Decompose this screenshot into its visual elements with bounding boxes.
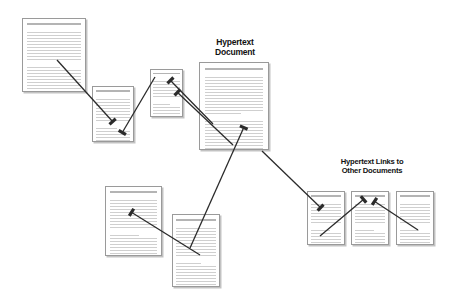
page-text-line: [205, 110, 264, 111]
page-text-line: [176, 231, 216, 232]
page-text-line: [355, 230, 374, 231]
page-text-line: [176, 281, 216, 282]
page-text-line: [355, 236, 386, 237]
page-text-gap: [311, 199, 342, 202]
page-text-line: [176, 219, 216, 221]
page-text-line: [110, 241, 157, 242]
page-text-line: [27, 91, 80, 92]
page-text-line: [96, 128, 117, 129]
page-text-line: [27, 23, 80, 25]
page-text-gap: [400, 199, 431, 202]
page-text-line: [355, 233, 386, 234]
page-text-lines: [355, 195, 386, 241]
page-text-gap: [311, 225, 342, 228]
page-text-lines: [96, 90, 130, 138]
page-text-gap: [96, 123, 130, 126]
page-text-gap: [205, 116, 264, 119]
page-text-line: [176, 249, 216, 250]
page-text-line: [205, 80, 264, 81]
page-text-line: [205, 107, 264, 108]
document-page-lower-mid: [172, 214, 220, 287]
page-text-line: [96, 108, 130, 109]
page-text-line: [400, 233, 431, 234]
page-text-line: [311, 207, 342, 208]
page-text-line: [205, 101, 264, 102]
linked-document-page-3: [396, 191, 434, 245]
page-text-lines: [110, 191, 157, 252]
page-text-line: [153, 104, 170, 105]
page-text-gap: [355, 199, 386, 202]
page-text-line: [176, 240, 216, 241]
page-text-line: [153, 81, 180, 82]
page-text-line: [205, 92, 264, 93]
page-text-line: [27, 56, 80, 57]
page-text-line: [355, 242, 386, 243]
page-text-line: [400, 219, 431, 220]
page-text-line: [205, 142, 264, 143]
page-text-line: [153, 116, 180, 117]
page-text-line: [176, 266, 216, 267]
page-text-line: [110, 209, 157, 210]
page-text-line: [400, 239, 431, 240]
page-text-line: [176, 269, 216, 270]
page-text-line: [153, 110, 180, 111]
page-text-line: [153, 73, 180, 75]
page-text-line: [205, 127, 264, 128]
page-text-line: [176, 237, 216, 238]
page-text-line: [110, 215, 157, 216]
page-text-line: [96, 102, 130, 103]
page-text-line: [205, 95, 264, 96]
page-text-line: [27, 44, 80, 45]
page-text-line: [110, 221, 157, 222]
page-text-line: [96, 120, 130, 121]
page-text-line: [176, 263, 201, 264]
page-text-line: [96, 111, 130, 112]
page-text-line: [27, 82, 80, 83]
page-text-line: [27, 41, 80, 42]
page-text-line: [205, 139, 264, 140]
page-text-line: [205, 130, 264, 131]
main-document-label: Hypertext Document: [206, 38, 264, 57]
page-text-line: [400, 204, 431, 205]
page-text-line: [27, 53, 80, 54]
page-text-line: [355, 222, 386, 223]
document-page-top-left: [22, 18, 86, 92]
page-text-lines: [153, 73, 180, 114]
page-text-line: [311, 222, 342, 223]
page-text-line: [153, 90, 180, 91]
page-text-gap: [153, 76, 180, 79]
page-text-line: [96, 137, 130, 138]
page-text-line: [153, 93, 180, 94]
page-text-line: [205, 89, 264, 90]
page-text-line: [110, 253, 157, 254]
page-text-line: [27, 85, 80, 86]
page-text-lines: [205, 68, 264, 145]
page-text-line: [355, 216, 386, 217]
page-text-line: [355, 239, 386, 240]
linked-document-page-2: [351, 191, 389, 245]
page-text-line: [110, 235, 139, 236]
page-text-gap: [110, 195, 157, 198]
page-text-line: [176, 252, 216, 253]
document-page-small-center: [150, 69, 183, 117]
page-text-line: [96, 140, 130, 141]
page-text-line: [153, 96, 180, 97]
page-text-line: [400, 216, 431, 217]
page-text-line: [205, 124, 264, 125]
page-text-line: [27, 76, 80, 77]
page-text-line: [27, 70, 80, 71]
page-text-gap: [176, 223, 216, 226]
page-text-line: [176, 243, 216, 244]
page-text-line: [355, 204, 386, 205]
page-text-gap: [110, 230, 157, 233]
page-text-line: [110, 227, 157, 228]
page-text-gap: [153, 99, 180, 102]
page-text-line: [110, 200, 157, 201]
page-text-line: [400, 207, 431, 208]
page-text-line: [355, 207, 386, 208]
page-text-line: [110, 247, 157, 248]
page-text-gap: [205, 72, 264, 75]
document-page-upper-mid-left: [92, 86, 134, 142]
page-text-line: [205, 98, 264, 99]
page-text-lines: [400, 195, 431, 241]
